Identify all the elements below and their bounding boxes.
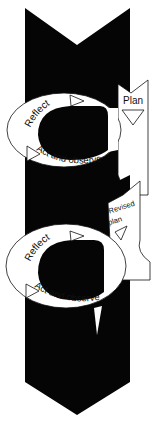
plan-label: Plan: [123, 95, 143, 106]
plan-connector-2: [104, 250, 112, 292]
plan-connector-1: [108, 108, 118, 152]
action-research-spiral-diagram: Reflect Act and observe Plan Reflect Act…: [0, 0, 159, 422]
